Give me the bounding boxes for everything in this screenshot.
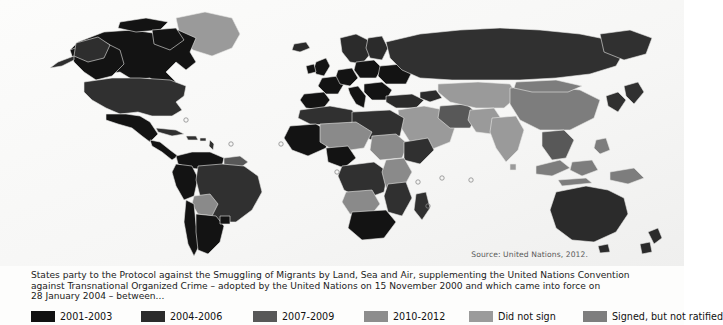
legend-swatch-did-not-sign xyxy=(469,311,493,322)
legend-item-2010-2012[interactable]: 2010-2012 xyxy=(364,311,445,322)
legend-swatch-signed-but-not-ratified xyxy=(583,311,607,322)
legend-swatch-2004-2006 xyxy=(141,311,165,322)
region-ireland[interactable] xyxy=(306,64,316,74)
legend-swatch-2007-2009 xyxy=(253,311,277,322)
legend-label-2001-2003: 2001-2003 xyxy=(60,311,112,322)
legend-label-2010-2012: 2010-2012 xyxy=(393,311,445,322)
legend-item-did-not-sign[interactable]: Did not sign xyxy=(469,311,556,322)
caption-line-3: 28 January 2004 – between... xyxy=(31,291,671,302)
region-new-zealand-south[interactable] xyxy=(640,242,652,254)
legend-label-did-not-sign: Did not sign xyxy=(498,311,556,322)
legend-item-2001-2003[interactable]: 2001-2003 xyxy=(31,311,112,322)
caption-line-2: against Transnational Organized Crime – … xyxy=(31,281,671,292)
legend-label-2007-2009: 2007-2009 xyxy=(282,311,334,322)
legend-item-signed-but-not-ratified[interactable]: Signed, but not ratified xyxy=(583,311,723,322)
map-legend: 2001-2003 2004-2006 2007-2009 2010-2012 … xyxy=(31,311,684,324)
region-tasmania[interactable] xyxy=(598,244,610,253)
world-map-svg[interactable] xyxy=(0,0,684,266)
legend-swatch-2010-2012 xyxy=(364,311,388,322)
legend-label-signed-but-not-ratified: Signed, but not ratified xyxy=(612,311,723,322)
world-map[interactable]: Source: United Nations, 2012. xyxy=(0,0,684,266)
figure-caption: States party to the Protocol against the… xyxy=(31,270,671,302)
legend-label-2004-2006: 2004-2006 xyxy=(170,311,222,322)
caption-line-1: States party to the Protocol against the… xyxy=(31,270,671,281)
map-source-note: Source: United Nations, 2012. xyxy=(471,250,588,259)
legend-item-2007-2009[interactable]: 2007-2009 xyxy=(253,311,334,322)
region-hispaniola[interactable] xyxy=(186,136,198,140)
legend-item-2004-2006[interactable]: 2004-2006 xyxy=(141,311,222,322)
region-sri-lanka[interactable] xyxy=(510,164,516,170)
region-puerto-rico[interactable] xyxy=(200,138,206,141)
region-uruguay[interactable] xyxy=(220,216,230,224)
region-russia[interactable] xyxy=(386,28,624,80)
legend-swatch-2001-2003 xyxy=(31,311,55,322)
